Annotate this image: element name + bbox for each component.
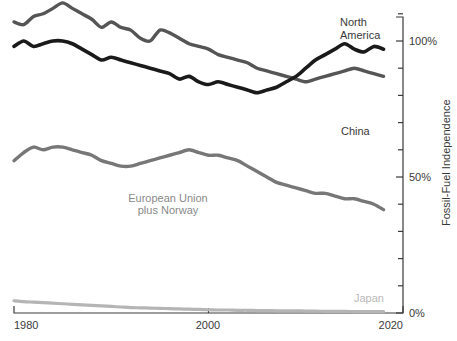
- chart-container: 100% 50% 0% 1980 2000 2020 Fossil-Fuel I…: [0, 0, 457, 341]
- series-line-china: [14, 41, 384, 93]
- fossil-fuel-independence-chart: 100% 50% 0% 1980 2000 2020 Fossil-Fuel I…: [0, 0, 457, 341]
- series-label-china: China: [341, 125, 371, 137]
- x-tick-label-2020: 2020: [379, 319, 403, 331]
- x-tick-label-1980: 1980: [14, 319, 38, 331]
- y-axis-line: [396, 17, 403, 313]
- series-line-japan: [14, 301, 384, 312]
- y-tick-label-50: 50%: [409, 171, 431, 183]
- series-label-north-america-line1: North: [340, 16, 367, 28]
- y-tick-label-100: 100%: [409, 35, 437, 47]
- x-tick-label-2000: 2000: [196, 319, 220, 331]
- y-axis-title: Fossil-Fuel Independence: [440, 99, 452, 226]
- series-label-european-union-line1: European Union: [128, 192, 208, 204]
- y-axis-ticks: [396, 14, 403, 313]
- series-label-european-union-line2: plus Norway: [138, 204, 199, 216]
- series-label-north-america-line2: America: [340, 29, 381, 41]
- series-label-japan: Japan: [354, 292, 384, 304]
- y-tick-label-0: 0%: [409, 307, 425, 319]
